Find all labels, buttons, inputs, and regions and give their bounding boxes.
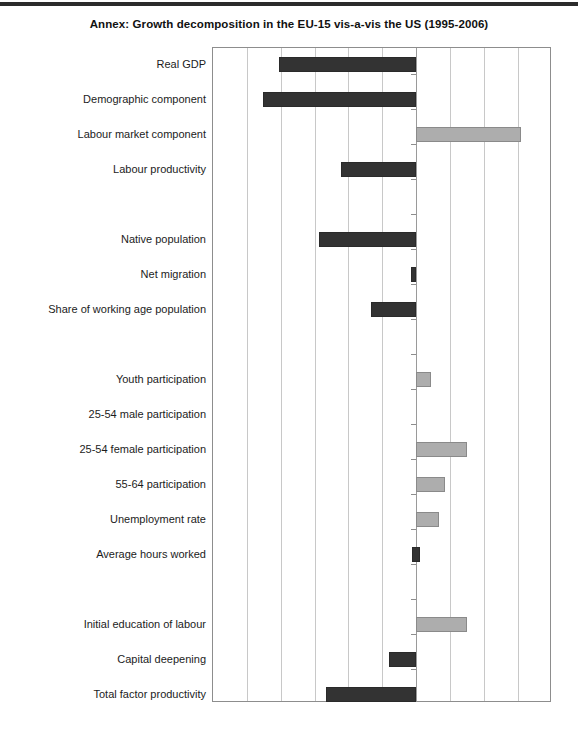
category-label: Youth participation: [0, 373, 206, 385]
bar: [263, 92, 416, 107]
axis-tick-14: [411, 564, 416, 565]
gridline-0: [247, 48, 248, 701]
axis-tick-15: [411, 599, 416, 600]
axis-tick-17: [411, 669, 416, 670]
axis-tick-4: [411, 214, 416, 215]
category-label: Demographic component: [0, 93, 206, 105]
gridline-3: [348, 48, 349, 701]
category-label: Labour market component: [0, 128, 206, 140]
gridline-2: [315, 48, 316, 701]
category-label: Labour productivity: [0, 163, 206, 175]
bar: [319, 232, 416, 247]
category-label: 25-54 male participation: [0, 408, 206, 420]
axis-tick-2: [411, 144, 416, 145]
axis-tick-6: [411, 284, 416, 285]
page-top-rule: [0, 2, 578, 6]
gridline-5: [450, 48, 451, 701]
bar: [389, 652, 416, 667]
category-label: Unemployment rate: [0, 513, 206, 525]
bar: [416, 477, 445, 492]
category-label: Average hours worked: [0, 548, 206, 560]
bar: [416, 442, 467, 457]
axis-tick-10: [411, 424, 416, 425]
category-label: Native population: [0, 233, 206, 245]
axis-tick-8: [411, 354, 416, 355]
axis-tick-12: [411, 494, 416, 495]
category-axis-labels: Real GDPDemographic componentLabour mark…: [0, 40, 206, 712]
axis-tick-1: [411, 109, 416, 110]
category-label: Initial education of labour: [0, 618, 206, 630]
axis-tick-0: [411, 74, 416, 75]
category-label: 55-64 participation: [0, 478, 206, 490]
category-label: Total factor productivity: [0, 688, 206, 700]
bar: [341, 162, 416, 177]
bar: [412, 547, 420, 562]
bar: [416, 617, 467, 632]
axis-tick-11: [411, 459, 416, 460]
bar: [326, 687, 416, 702]
axis-tick-9: [411, 389, 416, 390]
gridline-7: [518, 48, 519, 701]
category-label: Share of working age population: [0, 303, 206, 315]
gridline-6: [484, 48, 485, 701]
bar: [416, 512, 439, 527]
axis-tick-13: [411, 529, 416, 530]
bar: [279, 57, 416, 72]
category-label: 25-54 female participation: [0, 443, 206, 455]
category-label: Real GDP: [0, 58, 206, 70]
plot-area: [212, 47, 551, 702]
bar: [416, 372, 431, 387]
chart-page: Annex: Growth decomposition in the EU-15…: [0, 0, 578, 735]
axis-tick-7: [411, 319, 416, 320]
growth-decomposition-chart: Real GDPDemographic componentLabour mark…: [0, 40, 578, 712]
bar: [411, 267, 416, 282]
category-label: Net migration: [0, 268, 206, 280]
axis-tick-5: [411, 249, 416, 250]
bar: [371, 302, 416, 317]
gridline-1: [281, 48, 282, 701]
axis-tick-3: [411, 179, 416, 180]
gridline-4: [382, 48, 383, 701]
axis-tick-16: [411, 634, 416, 635]
category-label: Capital deepening: [0, 653, 206, 665]
chart-title: Annex: Growth decomposition in the EU-15…: [0, 18, 578, 30]
bar: [416, 127, 521, 142]
